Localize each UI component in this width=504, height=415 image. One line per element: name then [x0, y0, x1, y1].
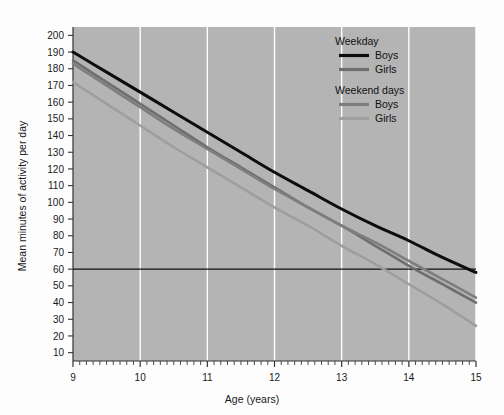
- svg-text:14: 14: [403, 372, 415, 383]
- svg-text:110: 110: [48, 180, 64, 191]
- svg-text:60: 60: [53, 264, 65, 275]
- x-axis-title: Age (years): [225, 393, 279, 405]
- svg-text:190: 190: [47, 47, 64, 58]
- legend-entry-label: Girls: [375, 112, 397, 124]
- svg-text:170: 170: [47, 80, 64, 91]
- legend-entry-label: Boys: [375, 49, 398, 61]
- svg-text:70: 70: [53, 247, 65, 258]
- svg-text:130: 130: [47, 147, 64, 158]
- svg-text:140: 140: [47, 130, 64, 141]
- svg-text:90: 90: [53, 214, 65, 225]
- svg-text:150: 150: [47, 113, 64, 124]
- svg-text:40: 40: [53, 297, 65, 308]
- svg-text:20: 20: [53, 331, 65, 342]
- svg-text:120: 120: [47, 164, 64, 175]
- y-axis-title: Mean minutes of activity per day: [16, 120, 28, 271]
- legend-entry-label: Boys: [375, 98, 398, 110]
- svg-text:200: 200: [47, 30, 64, 41]
- svg-text:30: 30: [53, 314, 65, 325]
- svg-text:10: 10: [135, 372, 147, 383]
- svg-text:180: 180: [47, 63, 64, 74]
- svg-text:13: 13: [336, 372, 348, 383]
- chart-canvas: 1020304050607080901001101201301401501601…: [0, 0, 504, 415]
- svg-text:12: 12: [269, 372, 281, 383]
- svg-text:80: 80: [53, 230, 65, 241]
- activity-chart: 1020304050607080901001101201301401501601…: [0, 0, 504, 415]
- legend-group-heading: Weekend days: [335, 84, 404, 96]
- svg-text:15: 15: [470, 372, 482, 383]
- svg-text:10: 10: [53, 347, 65, 358]
- svg-text:100: 100: [47, 197, 64, 208]
- svg-text:9: 9: [70, 372, 76, 383]
- svg-text:160: 160: [47, 97, 64, 108]
- legend-group-heading: Weekday: [335, 35, 379, 47]
- svg-text:50: 50: [53, 280, 65, 291]
- legend-entry-label: Girls: [375, 63, 397, 75]
- svg-text:11: 11: [202, 372, 213, 383]
